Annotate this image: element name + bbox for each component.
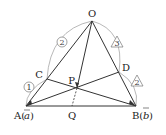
- label-c: C: [35, 69, 43, 80]
- label-b: B( b ): [132, 108, 153, 121]
- svg-text:3: 3: [114, 39, 119, 48]
- svg-text:1: 1: [26, 83, 31, 92]
- svg-text:): ): [30, 110, 34, 121]
- segment-cb: [47, 79, 136, 106]
- svg-text:B(: B(: [132, 110, 143, 121]
- ratio-marker-ca: 1: [24, 82, 34, 92]
- svg-text:2: 2: [134, 78, 139, 87]
- svg-text:2: 2: [59, 38, 64, 47]
- ratio-marker-od: 3: [111, 36, 123, 48]
- label-q: Q: [68, 110, 76, 121]
- ratio-marker-oc: 2: [57, 37, 67, 47]
- label-o: O: [88, 8, 96, 19]
- label-d: D: [122, 62, 130, 73]
- label-p: P: [68, 75, 75, 86]
- segment-pq-dashed: [72, 88, 77, 106]
- label-a: A( a ): [13, 110, 34, 121]
- svg-text:): ): [149, 110, 153, 121]
- geometry-diagram: 1 2 3 2 O C D P Q A( a ) B( b ): [0, 0, 166, 135]
- ratio-marker-db: 2: [131, 75, 143, 87]
